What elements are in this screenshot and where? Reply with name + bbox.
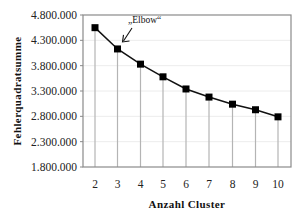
data-point-marker xyxy=(183,85,190,92)
data-point-marker xyxy=(160,73,167,80)
y-tick-label: 4.300.000 xyxy=(31,34,77,46)
drop-lines xyxy=(95,28,278,167)
x-axis-ticks: 2345678910 xyxy=(92,178,284,190)
x-tick-label: 7 xyxy=(206,178,212,190)
data-point-marker xyxy=(206,94,213,101)
x-tick-label: 3 xyxy=(115,178,121,190)
data-point-marker xyxy=(252,106,259,113)
y-tick-label: 2.800.000 xyxy=(31,110,77,122)
data-point-marker xyxy=(229,101,236,108)
x-tick-label: 8 xyxy=(230,178,236,190)
y-tick-label: 4.800.000 xyxy=(31,9,77,21)
elbow-annotation-label: „Elbow“ xyxy=(128,15,161,25)
y-tick-label: 1.800.000 xyxy=(31,161,77,173)
data-point-marker xyxy=(137,61,144,68)
y-axis-ticks: 1.800.0002.300.0002.800.0003.300.0003.80… xyxy=(31,9,83,173)
x-tick-label: 10 xyxy=(272,178,284,190)
data-point-marker xyxy=(92,24,99,31)
y-tick-label: 3.300.000 xyxy=(31,85,77,97)
y-tick-label: 3.800.000 xyxy=(31,60,77,72)
data-point-marker xyxy=(114,45,121,52)
x-tick-label: 6 xyxy=(183,178,189,190)
elbow-chart: 1.800.0002.300.0002.800.0003.300.0003.80… xyxy=(0,0,305,217)
x-axis-title: Anzahl Cluster xyxy=(149,198,226,210)
elbow-arrow-shaft xyxy=(124,28,133,41)
x-tick-label: 2 xyxy=(92,178,98,190)
annotations: „Elbow“ xyxy=(123,15,162,42)
y-axis-title: Fehlerquadratsumme xyxy=(11,36,23,145)
y-tick-label: 2.300.000 xyxy=(31,136,77,148)
data-point-marker xyxy=(275,113,282,120)
x-tick-label: 4 xyxy=(138,178,144,190)
x-tick-label: 5 xyxy=(160,178,166,190)
x-tick-label: 9 xyxy=(253,178,259,190)
